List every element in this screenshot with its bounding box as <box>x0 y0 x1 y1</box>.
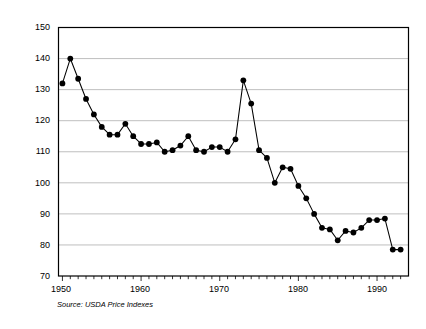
data-point <box>178 143 184 149</box>
data-point <box>256 147 262 153</box>
data-point <box>138 141 144 147</box>
data-point <box>295 183 301 189</box>
data-series-line <box>62 59 400 250</box>
data-point <box>162 149 168 155</box>
data-point <box>107 132 113 138</box>
data-point <box>217 144 223 150</box>
data-point <box>193 147 199 153</box>
data-point <box>170 147 176 153</box>
data-point <box>67 56 73 62</box>
data-point <box>60 81 66 87</box>
data-series-markers <box>60 56 404 253</box>
data-point <box>366 217 372 223</box>
data-point <box>390 247 396 253</box>
data-point <box>319 225 325 231</box>
data-point <box>209 144 215 150</box>
data-point <box>201 149 207 155</box>
data-point <box>264 155 270 161</box>
data-point <box>280 164 286 170</box>
data-point <box>115 132 121 138</box>
data-point <box>154 140 160 146</box>
data-point <box>122 121 128 127</box>
gridlines-group <box>59 59 409 245</box>
data-point <box>343 228 349 234</box>
data-point <box>99 124 105 130</box>
data-point <box>75 76 81 82</box>
data-point <box>351 230 357 236</box>
data-point <box>272 180 278 186</box>
data-point <box>233 136 239 142</box>
data-point <box>311 211 317 217</box>
data-point <box>225 149 231 155</box>
data-point <box>240 77 246 83</box>
chart-figure: Output/Input Price Ratio 150 140 130 120… <box>0 0 426 329</box>
data-point <box>130 133 136 139</box>
data-point <box>398 247 404 253</box>
data-point <box>288 166 294 172</box>
data-point <box>374 217 380 223</box>
data-point <box>185 133 191 139</box>
data-point <box>382 216 388 222</box>
data-point <box>146 141 152 147</box>
data-point <box>358 225 364 231</box>
data-point <box>83 96 89 102</box>
data-point <box>91 112 97 118</box>
data-point <box>327 227 333 233</box>
plot-area <box>0 0 426 329</box>
data-point <box>248 101 254 107</box>
data-point <box>303 195 309 201</box>
x-tickmarks-group <box>62 276 400 281</box>
data-point <box>335 237 341 243</box>
